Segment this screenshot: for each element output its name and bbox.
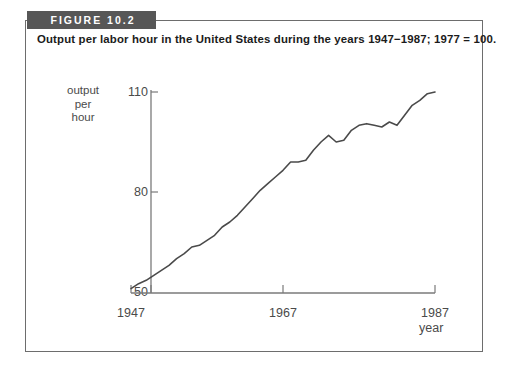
figure-caption: Output per labor hour in the United Stat…: [37, 33, 467, 45]
y-axis-label: output per hour: [52, 84, 114, 125]
y-tick-label-110: 110: [114, 85, 148, 99]
y-axis-label-line-1: output: [52, 84, 114, 98]
figure-container: FIGURE 10.2 Output per labor hour in the…: [0, 0, 507, 369]
x-tick-label-1967: 1967: [253, 306, 313, 320]
figure-number-badge: FIGURE 10.2: [27, 11, 156, 29]
x-tick-label-1987: 1987: [405, 306, 465, 320]
x-axis-label: year: [419, 321, 443, 335]
figure-border: [25, 20, 483, 352]
y-axis-label-line-2: per: [52, 98, 114, 112]
y-tick-label-50: 50: [114, 285, 148, 299]
y-axis-label-line-3: hour: [52, 111, 114, 125]
x-tick-label-1947: 1947: [101, 306, 161, 320]
y-tick-label-80: 80: [114, 185, 148, 199]
